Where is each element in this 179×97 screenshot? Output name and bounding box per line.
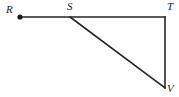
point-dot-r [17,14,22,19]
segment-sv [70,17,165,88]
vertex-label-t: T [167,1,173,12]
geometry-canvas [0,0,179,97]
geometry-figure: R S T V [0,0,179,97]
vertex-label-v: V [167,83,174,94]
vertex-label-s: S [67,1,73,12]
vertex-label-r: R [6,4,13,15]
